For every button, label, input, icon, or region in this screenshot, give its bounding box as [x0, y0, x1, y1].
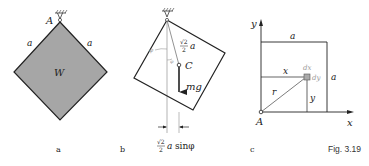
y-axis-arrow-icon — [259, 19, 263, 26]
area-element — [304, 74, 310, 80]
svg-text:√2: √2 — [157, 138, 165, 145]
fixed-support-icon — [55, 10, 67, 22]
panel-b: φ φ √2 2 a C mg √2 2 a sinφ b — [120, 8, 225, 154]
weight-label: W — [54, 67, 65, 78]
top-side-label: a — [290, 31, 295, 41]
side-label-left: a — [27, 38, 32, 48]
svg-text:sinφ: sinφ — [175, 141, 195, 151]
y-distance-label: y — [309, 93, 316, 103]
center-of-mass-point — [177, 63, 181, 67]
side-label-right: a — [87, 38, 92, 48]
svg-text:a: a — [190, 41, 195, 51]
svg-text:a: a — [167, 141, 172, 151]
force-label: mg — [186, 81, 202, 92]
panel-label-b: b — [120, 145, 125, 154]
fixed-support-icon — [162, 8, 174, 17]
x-distance-label: x — [283, 66, 288, 76]
origin-label: A — [255, 116, 263, 127]
offset-dimension — [158, 112, 189, 133]
angle-label-small: φ — [170, 58, 174, 65]
y-axis-label: y — [250, 18, 257, 29]
dx-label: dx — [303, 64, 311, 72]
figure-caption: Fig. 3.19 — [328, 144, 361, 154]
panel-label-c: c — [250, 145, 255, 154]
svg-text:2: 2 — [182, 46, 186, 53]
angle-arc — [155, 49, 167, 50]
offset-label: √2 2 a sinφ — [157, 138, 195, 153]
pivot-label: A — [45, 15, 53, 26]
x-axis-arrow-icon — [347, 110, 354, 114]
radius-label: r — [272, 87, 277, 97]
panel-label-a: a — [56, 145, 61, 154]
right-side-label: a — [331, 72, 336, 82]
panel-c: y x a a x y r dx dy A c — [250, 18, 354, 154]
radius-line — [261, 78, 305, 112]
origin-point — [259, 110, 263, 114]
dy-label: dy — [312, 74, 321, 82]
figure-canvas: A a a W a φ φ √2 2 a — [0, 0, 369, 166]
svg-text:2: 2 — [159, 146, 163, 153]
x-axis-label: x — [347, 117, 353, 128]
angle-label: φ — [149, 46, 154, 54]
svg-text:√2: √2 — [180, 38, 188, 45]
distance-label: √2 2 a — [180, 38, 195, 53]
panel-a: A a a W a — [14, 10, 107, 154]
center-label: C — [185, 60, 193, 71]
